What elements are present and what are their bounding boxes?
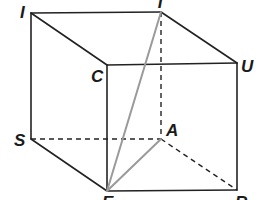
hidden-edge-AR bbox=[161, 139, 237, 190]
diagonal-segments bbox=[107, 12, 161, 191]
label-S: S bbox=[14, 131, 26, 150]
label-C: C bbox=[91, 67, 104, 86]
edge-ER bbox=[107, 190, 237, 191]
label-R: R bbox=[235, 193, 248, 200]
edge-CU bbox=[107, 63, 237, 65]
edge-IC bbox=[31, 13, 107, 65]
label-A: A bbox=[165, 121, 178, 140]
edge-TU bbox=[161, 12, 237, 63]
label-T: T bbox=[155, 0, 167, 12]
edge-SE bbox=[31, 139, 107, 191]
cube-diagram: I T C U S A E R bbox=[0, 0, 258, 200]
edge-IT bbox=[31, 12, 161, 13]
label-I: I bbox=[20, 3, 26, 22]
label-E: E bbox=[102, 193, 114, 200]
label-U: U bbox=[241, 57, 254, 76]
